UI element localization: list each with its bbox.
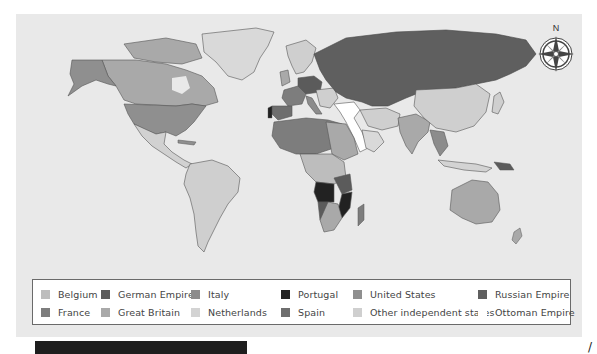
legend-item-russian-empire: Russian Empire: [478, 287, 569, 301]
legend-item-portugal: Portugal: [281, 287, 338, 301]
legend-label: Russian Empire: [495, 289, 569, 300]
compass-north-label: N: [553, 23, 560, 33]
legend-item-other-independent-states: Other independent states: [353, 305, 494, 319]
legend-label: Portugal: [298, 289, 338, 300]
legend-swatch: [353, 308, 362, 317]
world-map: [16, 14, 582, 274]
legend-item-ottoman-empire: Ottoman Empire: [478, 305, 575, 319]
legend-swatch: [191, 290, 200, 299]
stray-mark: /: [588, 340, 592, 354]
legend-label: Great Britain: [118, 307, 180, 318]
legend-label: Belgium: [58, 289, 98, 300]
region-angola: [314, 182, 334, 202]
legend-swatch: [41, 308, 50, 317]
legend-label: United States: [370, 289, 436, 300]
legend-item-great-britain: Great Britain: [101, 305, 180, 319]
legend-item-italy: Italy: [191, 287, 229, 301]
legend-label: Ottoman Empire: [495, 307, 575, 318]
legend-swatch: [41, 290, 50, 299]
legend-item-belgium: Belgium: [41, 287, 98, 301]
region-portugal: [268, 106, 272, 118]
legend: Belgium German Empire Italy Portugal Uni…: [32, 279, 571, 325]
legend-swatch: [478, 290, 487, 299]
legend-swatch: [478, 308, 487, 317]
legend-label: German Empire: [118, 289, 194, 300]
compass-rose-icon: N: [536, 22, 576, 76]
legend-swatch: [281, 290, 290, 299]
legend-label: Netherlands: [208, 307, 267, 318]
legend-swatch: [353, 290, 362, 299]
legend-item-german-empire: German Empire: [101, 287, 194, 301]
legend-label: France: [58, 307, 90, 318]
legend-swatch: [101, 308, 110, 317]
legend-item-netherlands: Netherlands: [191, 305, 267, 319]
legend-swatch: [191, 308, 200, 317]
legend-item-france: France: [41, 305, 90, 319]
legend-item-united-states: United States: [353, 287, 436, 301]
legend-swatch: [281, 308, 290, 317]
legend-label: Spain: [298, 307, 325, 318]
legend-label: Italy: [208, 289, 229, 300]
map-panel: Belgium German Empire Italy Portugal Uni…: [16, 14, 582, 337]
legend-item-spain: Spain: [281, 305, 325, 319]
legend-label: Other independent states: [370, 307, 494, 318]
cropped-dark-bar: [35, 341, 247, 354]
legend-swatch: [101, 290, 110, 299]
